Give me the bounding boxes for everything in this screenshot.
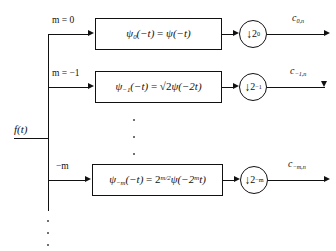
filter-expression-m-1: ψ−1(−t) = √2ψ(−2t) — [115, 81, 201, 94]
vertical-ellipsis-middle — [132, 119, 136, 155]
downsampler-m-generic: ↓2−m — [240, 166, 268, 194]
distribution-bus-wire — [48, 34, 49, 211]
filter-block-m0: ψ0(−t) = ψ(−t) — [95, 18, 222, 50]
branch-wire-m-1 — [48, 87, 89, 88]
output-label-m-generic: c−m,n — [288, 159, 306, 170]
output-wire-m-1 — [267, 87, 325, 88]
downsampler-m0: ↓20 — [239, 20, 267, 48]
output-arrow-m0 — [324, 30, 330, 36]
wavelet-filter-bank-diagram: f(t) m = 0 ψ0(−t) = ψ(−t) ↓20 c0,n m = −… — [0, 0, 336, 251]
branch-arrow-m-1 — [88, 83, 94, 89]
branch-wire-m0 — [48, 34, 89, 35]
output-label-m0: c0,n — [292, 13, 304, 24]
branch-arrow-m0 — [88, 30, 94, 36]
output-arrow-m-1 — [321, 81, 327, 87]
branch-label-m0: m = 0 — [52, 16, 74, 26]
branch-wire-m-generic — [48, 180, 86, 181]
filter-expression-m0: ψ0(−t) = ψ(−t) — [126, 28, 190, 41]
filter-block-m-1: ψ−1(−t) = √2ψ(−2t) — [95, 71, 222, 103]
input-lead-wire — [14, 138, 48, 139]
downsampler-m-1: ↓2−1 — [239, 73, 267, 101]
downsampler-label-m-generic: ↓2−m — [244, 174, 263, 186]
output-label-m-1: c−1,n — [290, 66, 306, 77]
filter-expression-m-generic: ψ−m(−t) = 2m/2ψ(−2mt) — [109, 174, 206, 187]
output-wire-m0 — [267, 34, 325, 35]
input-signal-label: f(t) — [14, 124, 27, 135]
branch-label-m-1: m = −1 — [52, 69, 80, 79]
filter-block-m-generic: ψ−m(−t) = 2m/2ψ(−2mt) — [92, 164, 223, 196]
downsampler-label-m-1: ↓2−1 — [244, 81, 262, 93]
downsampler-label-m0: ↓20 — [246, 28, 260, 40]
output-arrow-m-generic — [324, 176, 330, 182]
branch-label-m-generic: −m — [56, 162, 69, 172]
branch-arrow-m-generic — [85, 176, 91, 182]
output-wire-m-generic — [268, 180, 325, 181]
vertical-ellipsis-bottom — [46, 220, 50, 246]
